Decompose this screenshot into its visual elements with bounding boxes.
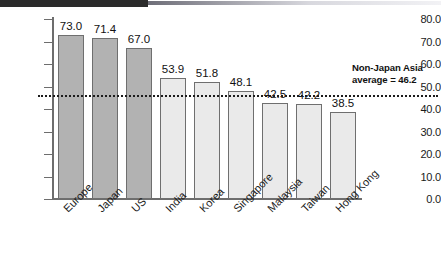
- y-axis-line: [52, 17, 54, 200]
- y-tick-mark: [44, 154, 52, 155]
- bar: [126, 48, 152, 199]
- y-tick-mark: [44, 177, 52, 178]
- y-tick-label: 0.0: [399, 193, 441, 205]
- bar-value-label: 67.0: [128, 33, 150, 45]
- reference-line: [38, 95, 438, 97]
- bar-value-label: 71.4: [94, 23, 116, 35]
- bar: [92, 38, 118, 199]
- y-tick-mark: [44, 109, 52, 110]
- reference-line-annotation: Non-Japan Asia average = 46.2: [352, 62, 440, 87]
- y-tick-mark: [44, 87, 52, 88]
- y-tick-label: 20.0: [399, 148, 441, 160]
- y-tick-label: 40.0: [399, 103, 441, 115]
- bar-value-label: 53.9: [162, 63, 184, 75]
- bar-value-label: 51.8: [196, 67, 218, 79]
- annotation-line-2: average = 46.2: [352, 74, 440, 86]
- annotation-line-1: Non-Japan Asia: [352, 62, 440, 74]
- y-tick-mark: [44, 64, 52, 65]
- y-tick-label: 80.0: [399, 13, 441, 25]
- bar-value-label: 38.5: [332, 97, 354, 109]
- y-tick-label: 10.0: [399, 171, 441, 183]
- bar: [194, 82, 220, 199]
- bar: [228, 91, 254, 199]
- bar: [58, 35, 84, 199]
- y-tick-mark: [44, 42, 52, 43]
- y-tick-label: 30.0: [399, 126, 441, 138]
- bar-value-label: 73.0: [60, 20, 82, 32]
- bar-chart: 80.070.060.050.040.030.020.010.00.0 73.0…: [0, 0, 441, 261]
- y-tick-mark: [44, 199, 52, 200]
- y-tick-label: 70.0: [399, 36, 441, 48]
- y-tick-mark: [44, 132, 52, 133]
- y-tick-mark: [44, 19, 52, 20]
- bar-value-label: 48.1: [230, 76, 252, 88]
